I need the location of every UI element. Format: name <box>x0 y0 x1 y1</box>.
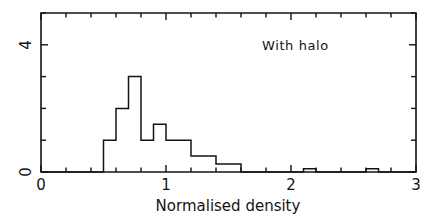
x-axis-title: Normalised density <box>156 197 301 215</box>
xtick-label-2: 2 <box>286 176 296 194</box>
ytick-label-4: 4 <box>17 40 35 50</box>
xtick-label-0: 0 <box>36 176 46 194</box>
ytick-label-0: 0 <box>17 167 35 177</box>
figure-background <box>0 0 437 222</box>
chart-figure: 0 1 2 3 4 0 With halo Normalised density <box>0 0 437 222</box>
chart-annotation: With halo <box>262 38 329 53</box>
xtick-label-1: 1 <box>161 176 171 194</box>
histogram-chart: 0 1 2 3 4 0 With halo Normalised density <box>0 0 437 222</box>
xtick-label-3: 3 <box>411 176 421 194</box>
